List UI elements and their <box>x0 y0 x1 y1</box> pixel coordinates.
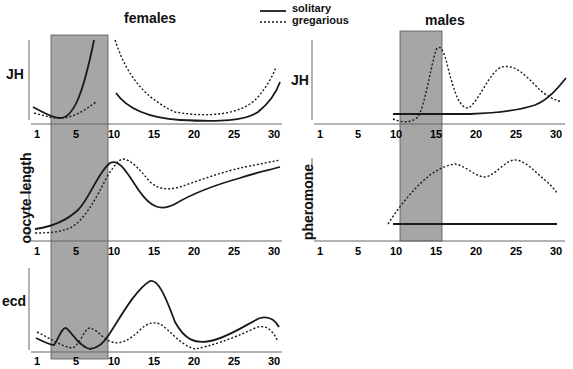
tick: 5 <box>73 245 79 257</box>
legend <box>260 11 286 22</box>
legend-dotted-label: gregarious <box>292 14 349 26</box>
tick: 1 <box>317 128 323 140</box>
females-jh-solitary-line-2 <box>116 82 280 121</box>
females-shaded-region <box>51 35 108 359</box>
tick: 20 <box>188 128 200 140</box>
tick: 15 <box>430 245 442 257</box>
tick: 20 <box>470 128 482 140</box>
tick: 15 <box>430 128 442 140</box>
tick: 30 <box>550 245 562 257</box>
tick: 10 <box>108 128 120 140</box>
tick: 25 <box>510 245 522 257</box>
tick: 15 <box>148 128 160 140</box>
females-title: females <box>124 10 176 26</box>
tick: 5 <box>355 245 361 257</box>
tick: 20 <box>188 355 200 367</box>
tick: 30 <box>268 355 280 367</box>
females-ecd-ylabel: ecd <box>2 293 26 309</box>
tick: 30 <box>268 128 280 140</box>
tick: 1 <box>317 245 323 257</box>
males-jh-ylabel: JH <box>291 72 309 88</box>
tick: 10 <box>390 245 402 257</box>
tick: 25 <box>510 128 522 140</box>
tick: 5 <box>73 128 79 140</box>
figure-canvas <box>0 0 573 369</box>
females-jh-gregarious-line-2 <box>115 40 276 115</box>
tick: 10 <box>108 355 120 367</box>
tick: 20 <box>470 245 482 257</box>
tick: 25 <box>228 355 240 367</box>
tick: 10 <box>108 245 120 257</box>
tick: 15 <box>148 355 160 367</box>
tick: 20 <box>188 245 200 257</box>
tick: 5 <box>73 355 79 367</box>
males-pheromone-ylabel: pheromone <box>300 152 316 252</box>
females-jh-ylabel: JH <box>6 66 24 82</box>
tick: 1 <box>34 245 40 257</box>
tick: 25 <box>228 245 240 257</box>
tick: 10 <box>390 128 402 140</box>
males-title: males <box>425 12 465 28</box>
females-oocyte-ylabel: oocyte length <box>18 138 34 258</box>
tick: 1 <box>34 355 40 367</box>
tick: 5 <box>355 128 361 140</box>
tick: 30 <box>268 245 280 257</box>
tick: 1 <box>34 128 40 140</box>
tick: 15 <box>148 245 160 257</box>
tick: 30 <box>550 128 562 140</box>
tick: 25 <box>228 128 240 140</box>
legend-solid-label: solitary <box>292 2 331 14</box>
